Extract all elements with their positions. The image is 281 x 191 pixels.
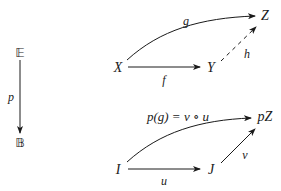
- morphism-f-label: f: [162, 74, 165, 86]
- morphism-h-arrow: [221, 27, 256, 61]
- object-j: J: [208, 163, 214, 177]
- base-category-label: 𝔹: [15, 136, 25, 149]
- morphism-u-label: u: [161, 175, 167, 187]
- object-i: I: [116, 163, 121, 177]
- total-category-label: 𝔼: [15, 46, 24, 59]
- morphism-g-arrow: [127, 16, 255, 60]
- object-y: Y: [207, 61, 215, 75]
- morphism-pg-label: p(g) = v ∘ u: [147, 110, 209, 123]
- morphism-g-label: g: [183, 15, 189, 27]
- morphism-h-label: h: [244, 48, 250, 60]
- object-pz: pZ: [258, 110, 273, 124]
- morphism-pg-arrow: [127, 118, 251, 162]
- object-x: X: [114, 61, 123, 75]
- morphism-v-label: v: [242, 149, 247, 161]
- morphism-v-arrow: [221, 129, 255, 163]
- diagram-arrows: [0, 0, 281, 191]
- functor-p-label: p: [8, 91, 14, 103]
- object-z: Z: [261, 9, 269, 23]
